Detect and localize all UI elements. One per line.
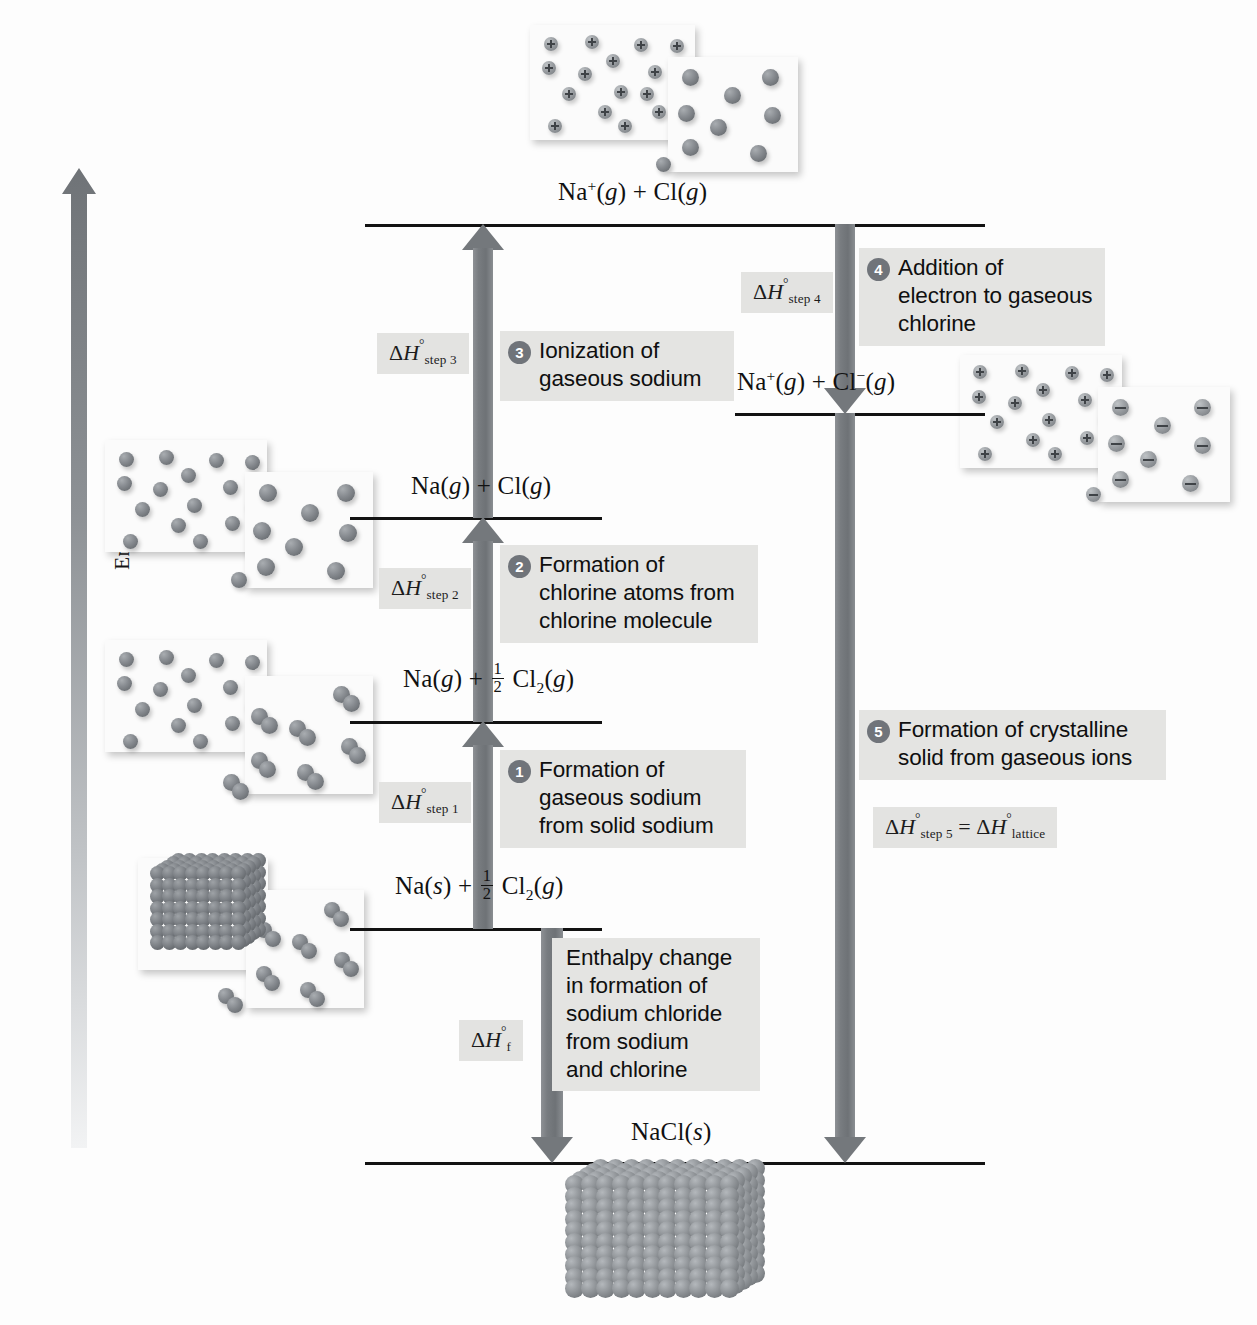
state-label-na-plus-cl-minus: Na+(g) + Cl−(g) xyxy=(737,368,895,396)
sodium-ion-sphere xyxy=(1008,396,1022,410)
arrow-head-up xyxy=(462,721,504,747)
sodium-atom-sphere xyxy=(223,680,238,695)
state-label-na-g-half-cl2: Na(g) + 12 Cl2(g) xyxy=(403,661,574,696)
sodium-ion-sphere xyxy=(670,39,684,53)
sodium-ion-sphere xyxy=(648,65,662,79)
crystal-sphere xyxy=(231,935,246,950)
step-badge-5: 5 xyxy=(867,720,890,743)
arrow-shaft xyxy=(835,224,855,390)
sodium-atom-sphere xyxy=(153,482,168,497)
illustration-na-atoms-cl-atoms xyxy=(105,440,370,600)
sodium-ion-sphere xyxy=(1042,413,1056,427)
enthalpy-tag-step-1: ΔH°step 1 xyxy=(379,782,471,823)
chlorine-atom-sphere xyxy=(301,504,319,522)
chlorine-molecule-sphere xyxy=(264,975,280,991)
chlorine-molecule-sphere xyxy=(349,747,366,764)
sodium-ion-sphere xyxy=(1048,447,1062,461)
panel-sodium-atoms xyxy=(105,440,267,552)
sodium-atom-sphere xyxy=(181,468,196,483)
chlorine-atom-sphere xyxy=(682,139,699,156)
chlorine-molecule-sphere xyxy=(343,695,360,712)
sodium-ion-sphere xyxy=(562,87,576,101)
illustration-na-atoms-cl2 xyxy=(105,640,370,805)
chloride-ion-sphere xyxy=(1182,475,1199,492)
sodium-atom-sphere xyxy=(181,668,196,683)
sodium-atom-sphere xyxy=(245,455,260,470)
sodium-atom-sphere xyxy=(193,534,208,549)
state-label-na-plus-cl: Na+(g) + Cl(g) xyxy=(558,178,707,206)
panel-chloride-ions xyxy=(1098,387,1230,502)
state-label-nacl-s: NaCl(s) xyxy=(631,1118,712,1146)
sodium-atom-sphere xyxy=(135,502,150,517)
chlorine-molecule-sphere xyxy=(232,783,249,800)
chlorine-atom-sphere xyxy=(231,572,247,588)
sodium-atom-sphere xyxy=(159,450,174,465)
sodium-atom-sphere xyxy=(117,476,132,491)
sodium-ion-sphere xyxy=(598,105,612,119)
sodium-atom-sphere xyxy=(171,718,186,733)
panel-sodium-atoms xyxy=(105,640,267,752)
enthalpy-tag-formation: ΔH°f xyxy=(459,1020,523,1061)
enthalpy-tag-step-2: ΔH°step 2 xyxy=(379,568,471,609)
sodium-ion-sphere xyxy=(990,415,1004,429)
chlorine-molecule-sphere xyxy=(343,961,359,977)
chlorine-atom-sphere xyxy=(710,119,727,136)
sodium-atom-sphere xyxy=(153,682,168,697)
chlorine-molecule-sphere xyxy=(299,729,316,746)
sodium-ion-sphere xyxy=(640,87,654,101)
sodium-ion-sphere xyxy=(585,35,599,49)
chlorine-atom-sphere xyxy=(762,69,779,86)
illustration-na-solid-cl2 xyxy=(138,858,373,1018)
sodium-atom-sphere xyxy=(135,702,150,717)
chlorine-atom-sphere xyxy=(682,69,699,86)
enthalpy-tag-step-5: ΔH°step 5 = ΔH°lattice xyxy=(873,807,1057,848)
sodium-ion-sphere xyxy=(1015,364,1029,378)
illustration-na-plus-cl-atoms xyxy=(530,25,800,175)
born-haber-diagram: Enthalpy, H xyxy=(0,0,1257,1325)
sodium-atom-sphere xyxy=(187,698,202,713)
sodium-atom-sphere xyxy=(123,734,138,749)
chlorine-molecule-sphere xyxy=(265,931,281,947)
sodium-atom-sphere xyxy=(123,534,138,549)
sodium-ion-sphere xyxy=(652,105,666,119)
sodium-ion-sphere xyxy=(634,38,648,52)
chlorine-molecule-sphere xyxy=(259,761,276,778)
callout-step-2: 2 Formation of chlorine atoms from chlor… xyxy=(500,545,758,643)
step-badge-2: 2 xyxy=(508,555,531,578)
sodium-ion-sphere xyxy=(618,119,632,133)
chlorine-atom-sphere xyxy=(724,87,741,104)
chloride-ion-sphere xyxy=(1086,487,1101,502)
sodium-ion-sphere xyxy=(542,61,556,75)
sodium-chloride-crystal-cube xyxy=(565,1175,765,1303)
chloride-ion-sphere xyxy=(1140,451,1157,468)
sodium-ion-sphere xyxy=(548,119,562,133)
sodium-atom-sphere xyxy=(245,655,260,670)
sodium-crystal-cube xyxy=(150,866,258,962)
chlorine-atom-sphere xyxy=(339,524,357,542)
chlorine-molecule-sphere xyxy=(227,997,243,1013)
callout-step-1: 1 Formation of gaseous sodium from solid… xyxy=(500,750,746,848)
enthalpy-axis-arrow xyxy=(62,168,96,1148)
arrow-step-5 xyxy=(824,413,866,1163)
sodium-ion-sphere xyxy=(1080,431,1094,445)
sodium-ion-sphere xyxy=(606,54,620,68)
sodium-atom-sphere xyxy=(225,716,240,731)
arrow-head-down xyxy=(824,1137,866,1163)
level-line-na-plus-cl xyxy=(365,224,985,227)
chlorine-atom-sphere xyxy=(678,105,695,122)
sodium-ion-sphere xyxy=(978,447,992,461)
chlorine-atom-sphere xyxy=(750,145,767,162)
arrow-shaft xyxy=(835,413,855,1139)
step-description-4: Addition of electron to gaseous chlorine xyxy=(898,254,1092,338)
chlorine-molecule-sphere xyxy=(333,911,349,927)
panel-chlorine-atoms xyxy=(245,472,373,588)
arrow-head-up xyxy=(462,224,504,250)
step-description-5: Formation of crystalline solid from gase… xyxy=(898,716,1132,772)
chloride-ion-sphere xyxy=(1108,435,1125,452)
sodium-ion-sphere xyxy=(1065,366,1079,380)
step-description-3: Ionization of gaseous sodium xyxy=(539,337,701,393)
enthalpy-tag-step-3: ΔH°step 3 xyxy=(377,333,469,374)
callout-formation-enthalpy: Enthalpy change in formation of sodium c… xyxy=(552,938,760,1091)
chlorine-molecule-sphere xyxy=(261,717,278,734)
sodium-ion-sphere xyxy=(614,85,628,99)
